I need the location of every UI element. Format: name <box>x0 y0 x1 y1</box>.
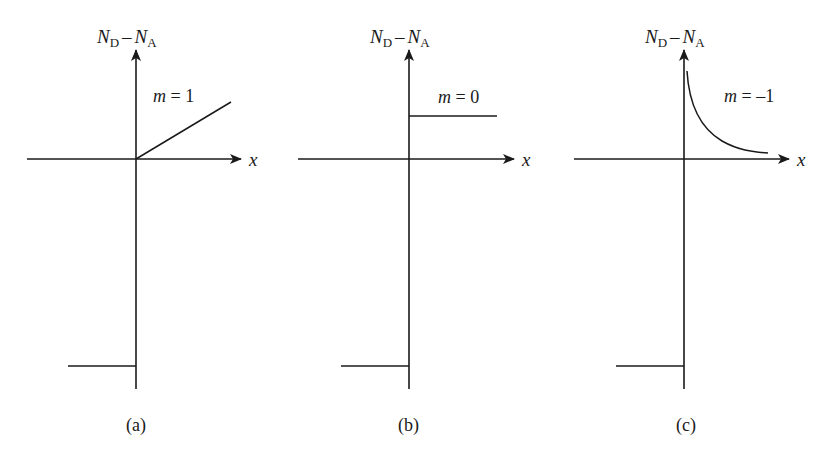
m-value: 1 <box>185 86 194 106</box>
m-var: m <box>724 86 737 106</box>
panel-b-y-axis-label: ND–NA <box>370 27 430 49</box>
panel-c-caption: (c) <box>676 416 696 434</box>
m-value: 0 <box>470 87 479 107</box>
y-label-minus: – <box>392 26 408 47</box>
panel-b <box>298 50 514 389</box>
y-label-sub-d: D <box>658 35 667 50</box>
panel-a-caption: (a) <box>126 416 146 434</box>
panel-a-curve-label: m = 1 <box>153 87 194 105</box>
y-label-var-na: N <box>135 26 148 47</box>
y-label-minus: – <box>119 26 135 47</box>
panel-a <box>27 50 241 389</box>
panel-a-x-axis-label: x <box>249 150 257 169</box>
y-label-sub-a: A <box>147 35 156 50</box>
y-label-var-nd: N <box>97 26 110 47</box>
panel-c-curve-label: m = –1 <box>724 87 774 105</box>
y-label-var-nd: N <box>370 26 383 47</box>
panel-b-x-axis-label: x <box>522 150 530 169</box>
m-value: –1 <box>756 86 774 106</box>
m-var: m <box>153 86 166 106</box>
equals-sign: = <box>451 87 470 107</box>
y-label-sub-a: A <box>420 35 429 50</box>
m-var: m <box>438 87 451 107</box>
panel-c-x-axis-label: x <box>797 150 805 169</box>
panel-b-curve-label: m = 0 <box>438 88 479 106</box>
panel-c-y-axis-label: ND–NA <box>645 27 705 49</box>
panel-a-linear-profile <box>136 102 231 159</box>
y-label-minus: – <box>667 26 683 47</box>
equals-sign: = <box>737 86 756 106</box>
y-label-var-nd: N <box>645 26 658 47</box>
panel-a-y-axis-label: ND–NA <box>97 27 157 49</box>
panel-b-caption: (b) <box>398 416 419 434</box>
y-label-var-na: N <box>408 26 421 47</box>
y-label-var-na: N <box>683 26 696 47</box>
y-label-sub-d: D <box>383 35 392 50</box>
panel-c-hyperabrupt-profile <box>687 71 768 153</box>
equals-sign: = <box>166 86 185 106</box>
doping-profile-figure: ND–NA m = 1 x (a) ND–NA m = 0 x (b) ND–N… <box>0 0 821 458</box>
y-label-sub-d: D <box>110 35 119 50</box>
diagram-canvas <box>0 0 821 458</box>
y-label-sub-a: A <box>695 35 704 50</box>
